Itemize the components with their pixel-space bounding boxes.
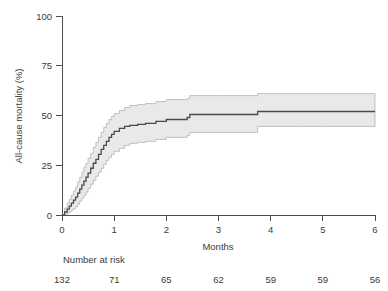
number-at-risk-value: 59 <box>265 274 276 285</box>
x-tick-label: 1 <box>112 224 117 235</box>
y-tick-label: 0 <box>47 210 52 221</box>
x-tick-label: 5 <box>320 224 325 235</box>
x-axis-ticks: 0123456 <box>59 215 377 235</box>
number-at-risk-value: 65 <box>161 274 172 285</box>
y-tick-label: 25 <box>41 160 52 171</box>
number-at-risk-value: 132 <box>54 274 70 285</box>
number-at-risk-value: 59 <box>318 274 329 285</box>
number-at-risk-row: 132716562595956 <box>54 274 380 285</box>
x-tick-label: 3 <box>216 224 221 235</box>
number-at-risk-value: 62 <box>213 274 224 285</box>
x-axis-title: Months <box>202 241 233 252</box>
number-at-risk-value: 71 <box>109 274 120 285</box>
x-tick-label: 2 <box>164 224 169 235</box>
number-at-risk-label: Number at risk <box>63 254 125 265</box>
y-axis-ticks: 0255075100 <box>36 11 62 221</box>
y-axis-title: All-cause mortality (%) <box>13 68 24 163</box>
y-tick-label: 50 <box>41 110 52 121</box>
y-tick-label: 75 <box>41 60 52 71</box>
y-tick-label: 100 <box>36 11 52 22</box>
x-tick-label: 4 <box>268 224 273 235</box>
x-tick-label: 6 <box>372 224 377 235</box>
kaplan-meier-plot: 0255075100 0123456 All-cause mortality (… <box>0 0 388 291</box>
x-tick-label: 0 <box>59 224 64 235</box>
survival-chart-figure: 0255075100 0123456 All-cause mortality (… <box>0 0 388 291</box>
number-at-risk-value: 56 <box>370 274 381 285</box>
